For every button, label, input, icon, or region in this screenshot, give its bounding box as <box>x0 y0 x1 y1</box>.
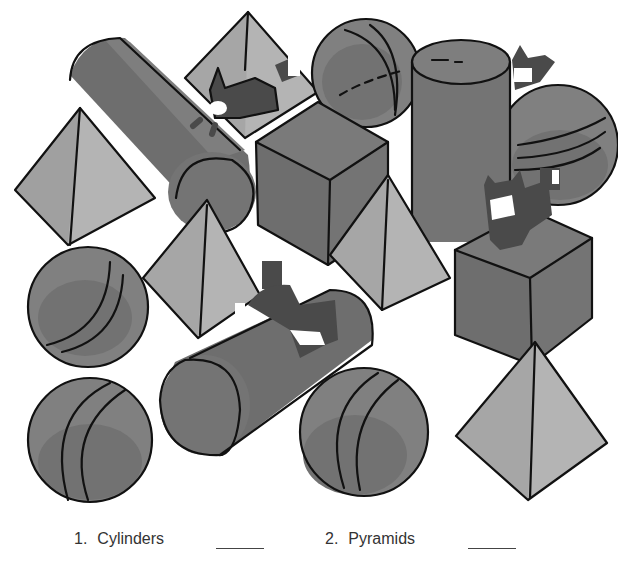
shapes-illustration <box>0 0 618 520</box>
question-pyramids: 2. Pyramids <box>325 530 415 548</box>
sphere-center-bottom <box>300 368 428 496</box>
question-cylinders: 1. Cylinders <box>74 530 164 548</box>
question-label: Cylinders <box>97 530 164 548</box>
question-number: 1. <box>74 530 87 548</box>
sphere-left-middle <box>28 247 148 367</box>
pyramid-bottom-right <box>456 342 607 500</box>
question-number: 2. <box>325 530 338 548</box>
sphere-left-bottom <box>28 378 152 502</box>
answer-blank-pyramids[interactable] <box>468 548 516 549</box>
question-label: Pyramids <box>348 530 415 548</box>
answer-blank-cylinders[interactable] <box>216 548 264 549</box>
cat-top-right <box>512 45 555 90</box>
worksheet-questions: 1. Cylinders 2. Pyramids <box>0 530 618 560</box>
